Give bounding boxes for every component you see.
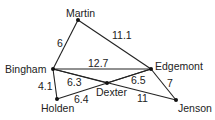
edge-weight-label: 6: [57, 37, 63, 49]
edge-weight-label: 12.7: [88, 57, 109, 69]
node-label-bingham: Bingham: [5, 63, 47, 75]
node-label-martin: Martin: [66, 7, 95, 19]
node-bingham: [51, 67, 55, 71]
edge-weight-label: 6.3: [67, 76, 82, 88]
node-label-jenson: Jenson: [178, 102, 212, 114]
edge-weight-label: 4.1: [38, 80, 53, 92]
edge-weight-label: 7: [167, 77, 173, 89]
node-label-holden: Holden: [41, 102, 74, 114]
node-edgemont: [149, 67, 153, 71]
node-label-dexter: Dexter: [96, 86, 127, 98]
weighted-graph: 611.112.74.1116.476.36.5 MartinBinghamEd…: [0, 0, 215, 120]
edge-weight-label: 11: [137, 92, 148, 104]
node-holden: [55, 97, 59, 101]
edge-weight-label: 11.1: [112, 29, 132, 41]
node-label-edgemont: Edgemont: [155, 60, 203, 72]
edge-weight-label: 6.5: [131, 74, 146, 86]
edge-weight-label: 6.4: [74, 93, 89, 105]
edge-bingham-holden: [53, 69, 57, 99]
node-dexter: [105, 81, 109, 85]
